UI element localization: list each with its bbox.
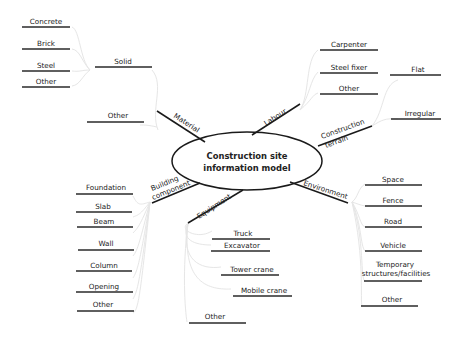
leaf-equipment-other: Other <box>205 312 225 321</box>
center-title-line2: information model <box>203 163 290 173</box>
leaf-opening: Opening <box>89 282 119 291</box>
leaf-irregular: Irregular <box>405 109 436 118</box>
leaf-slab: Slab <box>95 202 111 211</box>
leaf-flat: Flat <box>411 65 425 74</box>
branch-construction-terrain[interactable]: Construction terrain Flat Irregular <box>318 65 441 150</box>
leaf-labour-other: Other <box>339 84 359 93</box>
leaf-column: Column <box>90 261 118 270</box>
mind-map-diagram: Construction site information model Mate… <box>0 0 453 340</box>
leaf-excavator: Excavator <box>224 241 260 250</box>
leaf-concrete: Concrete <box>30 17 63 26</box>
branch-material[interactable]: Material Solid Concrete Brick Steel Othe… <box>22 17 205 142</box>
leaf-space: Space <box>382 175 404 184</box>
node-solid: Solid <box>114 57 132 66</box>
leaf-steel: Steel <box>37 61 55 70</box>
leaf-foundation: Foundation <box>86 183 126 192</box>
branch-label-labour: Labour <box>262 107 288 128</box>
node-material-other: Other <box>108 111 128 120</box>
leaf-environment-other: Other <box>382 295 402 304</box>
center-node[interactable]: Construction site information model <box>172 132 322 190</box>
leaf-wall: Wall <box>98 239 113 248</box>
leaf-temporary-line2: structures/facilities <box>362 269 431 278</box>
leaf-steel-fixer: Steel fixer <box>331 63 367 72</box>
branch-equipment[interactable]: Equipment Truck Excavator Tower crane Mo… <box>188 190 292 323</box>
leaf-mobile-crane: Mobile crane <box>241 286 288 295</box>
leaf-building-other: Other <box>93 300 113 309</box>
branch-label-equipment: Equipment <box>195 192 233 221</box>
leaf-temporary-line1: Temporary <box>375 260 415 269</box>
leaf-beam: Beam <box>94 217 115 226</box>
center-title-line1: Construction site <box>207 151 288 161</box>
branch-building-component[interactable]: Building component Foundation Slab Beam … <box>76 174 200 311</box>
leaf-fence: Fence <box>382 196 404 205</box>
leaf-vehicle: Vehicle <box>380 241 406 250</box>
leaf-carpenter: Carpenter <box>331 40 367 49</box>
leaf-other: Other <box>36 77 56 86</box>
leaf-brick: Brick <box>37 39 56 48</box>
leaf-road: Road <box>384 217 402 226</box>
leaf-truck: Truck <box>233 229 254 238</box>
leaf-tower-crane: Tower crane <box>229 265 274 274</box>
center-ellipse <box>172 132 322 190</box>
